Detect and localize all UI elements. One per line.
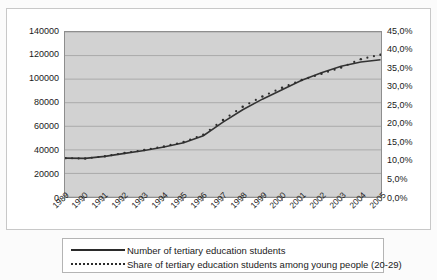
y-axis-right-tick: 40,0%	[387, 45, 413, 54]
chart-legend: Number of tertiary education students Sh…	[62, 238, 384, 273]
legend-label: Number of tertiary education students	[127, 245, 285, 256]
y-axis-left-tick: 40000	[7, 146, 59, 155]
y-axis-left-tick: 120000	[7, 50, 59, 59]
series-lines	[65, 53, 381, 159]
y-axis-right-tick: 35,0%	[387, 64, 413, 73]
chart-frame: 020000400006000080000100000120000140000 …	[6, 8, 431, 230]
plot-svg	[65, 32, 381, 197]
legend-solid-line-icon	[69, 245, 127, 255]
y-axis-right-tick: 45,0%	[387, 27, 413, 36]
y-axis-left-tick: 100000	[7, 74, 59, 83]
y-axis-right-tick: 5,0%	[387, 175, 408, 184]
legend-item-series-2: Share of tertiary education students amo…	[69, 257, 402, 271]
y-axis-right-tick: 25,0%	[387, 101, 413, 110]
y-axis-right-tick: 30,0%	[387, 82, 413, 91]
y-axis-right-tick: 20,0%	[387, 119, 413, 128]
x-axis-tickmarks	[64, 198, 383, 203]
y-axis-right-tick: 0,0%	[387, 194, 408, 203]
y-axis-left-tick: 60000	[7, 122, 59, 131]
y-axis-left-tick: 80000	[7, 98, 59, 107]
y-axis-left-tick: 20000	[7, 170, 59, 179]
legend-item-series-1: Number of tertiary education students	[69, 243, 285, 257]
legend-label: Share of tertiary education students amo…	[127, 259, 402, 270]
y-axis-right-tick: 10,0%	[387, 156, 413, 165]
y-axis-left-tick: 140000	[7, 27, 59, 36]
plot-area	[64, 31, 382, 198]
gridlines	[65, 32, 381, 197]
chart-figure: 020000400006000080000100000120000140000 …	[0, 0, 437, 280]
y-axis-right-tick: 15,0%	[387, 138, 413, 147]
legend-dotted-line-icon	[69, 259, 127, 269]
